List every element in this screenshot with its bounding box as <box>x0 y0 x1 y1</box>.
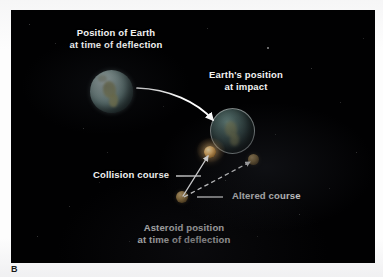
label-earth-at-deflection: Position of Earth at time of deflection <box>41 27 191 51</box>
label-line: at time of deflection <box>41 39 191 51</box>
label-line: at time of deflection <box>104 234 264 246</box>
asteroid-impacting <box>204 146 216 158</box>
asteroid-at-deflection <box>176 191 188 203</box>
landmass-shape <box>109 94 118 107</box>
label-line: at impact <box>181 81 311 93</box>
figure-panel-label: B <box>11 264 18 274</box>
landmass-shape <box>230 134 239 146</box>
landmass-shape <box>98 75 107 82</box>
label-altered-course: Altered course <box>232 190 332 201</box>
earth-at-deflection <box>90 70 133 113</box>
label-earth-at-impact: Earth's position at impact <box>181 69 311 93</box>
label-collision-course: Collision course <box>93 169 197 180</box>
earth-at-impact <box>210 108 255 154</box>
label-line: Asteroid position <box>104 222 264 234</box>
asteroid-deflected <box>248 154 259 165</box>
label-line: Earth's position <box>181 69 311 81</box>
label-asteroid-at-deflection: Asteroid position at time of deflection <box>104 222 264 246</box>
label-line: Position of Earth <box>41 27 191 39</box>
page-background: Position of Earth at time of deflection … <box>0 0 383 277</box>
space-diagram-panel: Position of Earth at time of deflection … <box>11 10 375 263</box>
